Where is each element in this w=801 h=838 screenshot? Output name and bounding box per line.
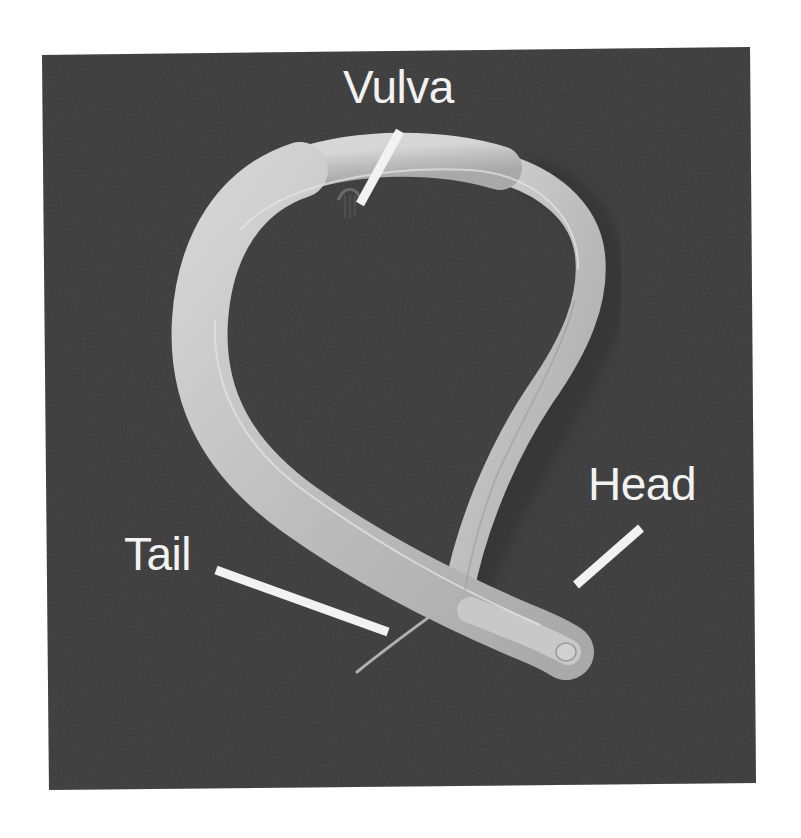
tail-label: Tail [124, 531, 191, 577]
micrograph-figure: Vulva Head Tail [0, 0, 801, 838]
micrograph-image [0, 0, 801, 838]
vulva-label: Vulva [343, 64, 454, 110]
head-label: Head [588, 461, 696, 507]
